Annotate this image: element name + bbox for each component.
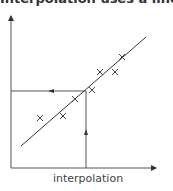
point-marker <box>89 87 95 93</box>
point-marker <box>72 96 78 102</box>
point-marker <box>97 69 103 75</box>
point-marker <box>60 113 66 119</box>
point-marker <box>37 115 43 121</box>
point-marker <box>112 69 118 75</box>
point-marker <box>119 54 125 60</box>
up-arrowhead <box>84 129 88 135</box>
left-arrowhead <box>48 89 54 93</box>
interpolation-diagram <box>0 0 173 191</box>
data-points <box>37 54 125 121</box>
x-axis-label: interpolation <box>52 172 124 185</box>
